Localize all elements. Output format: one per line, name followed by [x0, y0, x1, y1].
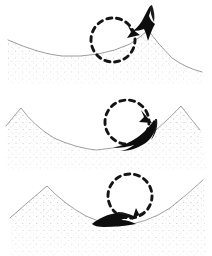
- panel-3: [0, 172, 212, 256]
- terrain-3: [0, 172, 212, 256]
- panel-2: [0, 86, 212, 170]
- dark-wedge-object-3: [92, 212, 136, 227]
- dashed-rotation-circle-3: [108, 174, 152, 218]
- figure-container: [0, 0, 212, 256]
- terrain-1: [0, 0, 212, 84]
- panel-1: [0, 0, 212, 84]
